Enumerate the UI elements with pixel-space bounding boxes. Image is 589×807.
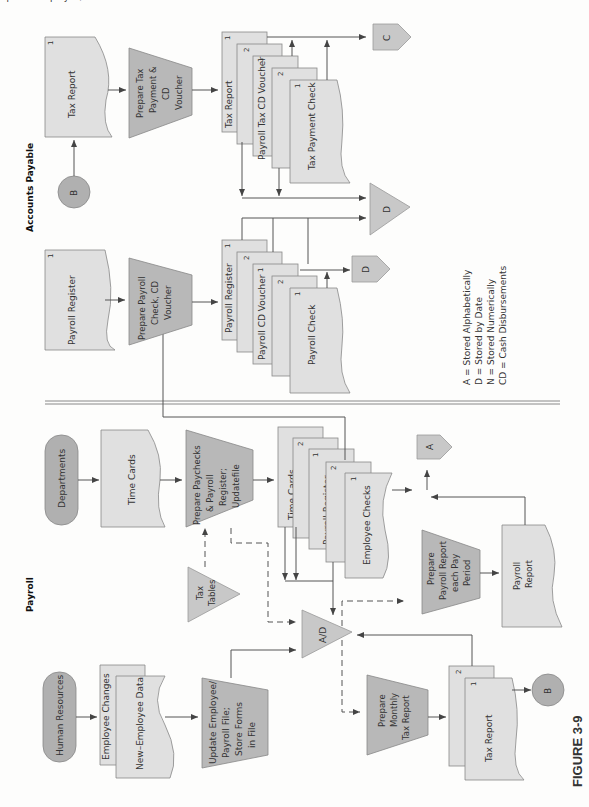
svg-text:1: 1 <box>294 292 302 296</box>
connector-b-ap: B <box>58 176 90 208</box>
svg-text:C: C <box>382 35 392 41</box>
svg-text:each Pay: each Pay <box>450 554 460 592</box>
prepare-tax-payment-process: Prepare Tax Payment & CD Voucher <box>129 48 192 138</box>
svg-text:Prepare: Prepare <box>377 694 387 727</box>
svg-text:A: A <box>425 443 435 450</box>
section-title-payroll: Payroll <box>25 577 35 612</box>
svg-text:Tax Report: Tax Report <box>401 694 411 741</box>
svg-text:1: 1 <box>257 268 265 272</box>
svg-text:Tax: Tax <box>195 586 205 601</box>
svg-text:Payroll Register: Payroll Register <box>67 275 77 345</box>
svg-text:Payroll: Payroll <box>512 562 522 590</box>
svg-text:D = Stored by Date: D = Stored by Date <box>474 297 484 385</box>
svg-text:D: D <box>382 206 392 213</box>
ap-tax-output-documents: 1 Tax Report 2 1 Payroll Tax CD Voucher … <box>222 32 350 183</box>
svg-text:Tax Payment Check: Tax Payment Check <box>307 82 317 171</box>
time-cards-document: Time Cards <box>101 430 165 527</box>
svg-text:Time Cards: Time Cards <box>127 454 137 506</box>
svg-text:Check, CD: Check, CD <box>150 281 160 325</box>
payroll-report-document: Payroll Report <box>502 525 562 627</box>
ap-payroll-output-documents: 1 Payroll Register 2 1 Payroll CD Vouche… <box>222 240 350 393</box>
svg-text:2: 2 <box>243 256 251 260</box>
svg-text:B: B <box>69 190 79 196</box>
human-resources-terminal: Human Resources <box>43 672 76 762</box>
flow-arrow <box>357 635 472 666</box>
svg-text:CD: CD <box>161 87 171 100</box>
svg-text:B: B <box>543 688 553 694</box>
tax-report-documents: 2 1 Tax Report <box>449 666 524 780</box>
svg-text:N = Stored Numerically: N = Stored Numerically <box>486 278 496 385</box>
svg-text:Monthly: Monthly <box>389 693 399 727</box>
svg-text:New–Employee Data: New–Employee Data <box>135 677 145 770</box>
departments-terminal: Departments <box>45 435 78 525</box>
prepare-paychecks-process: Prepare Paychecks & Payroll Register; Up… <box>186 430 253 527</box>
d-file-large: D <box>370 183 410 235</box>
svg-text:Register;: Register; <box>218 468 228 506</box>
ap-payroll-register-document: 1 Payroll Register <box>45 250 115 350</box>
ad-file: A/D <box>302 610 352 658</box>
svg-text:Tax Report: Tax Report <box>67 70 77 119</box>
reference-arrow <box>231 528 296 622</box>
flow-arrow <box>431 497 525 525</box>
svg-text:CD = Cash Disbursements: CD = Cash Disbursements <box>498 265 508 385</box>
flow-arrow <box>231 650 296 678</box>
svg-text:1: 1 <box>224 36 232 40</box>
prepare-payroll-check-process: Prepare Payroll Check, CD Voucher <box>129 258 192 345</box>
svg-text:Payroll Report: Payroll Report <box>438 540 448 600</box>
svg-text:Period: Period <box>462 559 472 586</box>
svg-text:2: 2 <box>243 48 251 52</box>
svg-text:in File: in File <box>247 721 257 748</box>
svg-text:Store Forms: Store Forms <box>234 702 244 756</box>
svg-text:Tax Report: Tax Report <box>484 714 494 763</box>
svg-text:Payroll File;: Payroll File; <box>221 707 231 758</box>
svg-text:Payroll Tax CD Voucher: Payroll Tax CD Voucher <box>257 57 267 160</box>
svg-text:1: 1 <box>312 453 320 457</box>
svg-text:A/D: A/D <box>318 627 328 643</box>
section-title-accounts-payable: Accounts Payable <box>25 143 35 232</box>
svg-text:2: 2 <box>277 72 285 76</box>
svg-text:1: 1 <box>350 477 358 481</box>
svg-text:2: 2 <box>455 670 463 674</box>
svg-text:Human Resources: Human Resources <box>55 674 65 756</box>
svg-text:Employee Changes: Employee Changes <box>101 673 111 760</box>
svg-text:Departments: Departments <box>57 449 67 508</box>
svg-text:1: 1 <box>224 244 232 248</box>
svg-text:Employee Checks: Employee Checks <box>362 485 372 565</box>
svg-text:Update Employee/: Update Employee/ <box>0 0 84 2</box>
prepare-payroll-report-process: Prepare Payroll Report each Pay Period <box>422 530 480 614</box>
svg-text:2: 2 <box>277 280 285 284</box>
reference-arrow <box>342 601 404 626</box>
ap-tax-report-document: 1 Tax Report <box>45 37 112 137</box>
svg-text:& Payroll: & Payroll <box>205 474 215 512</box>
svg-text:Prepare: Prepare <box>426 552 436 585</box>
svg-text:Payroll Check: Payroll Check <box>307 304 317 365</box>
svg-text:Tax Report: Tax Report <box>224 80 234 129</box>
svg-text:Payroll CD Voucher: Payroll CD Voucher <box>257 274 267 360</box>
svg-text:Voucher: Voucher <box>163 285 173 320</box>
svg-text:1: 1 <box>470 682 478 686</box>
svg-text:2: 2 <box>297 442 305 446</box>
svg-text:Tables: Tables <box>207 579 217 607</box>
d-file-small: D <box>352 256 390 282</box>
svg-text:A = Stored Alphabetically: A = Stored Alphabetically <box>462 269 472 385</box>
prepare-monthly-tax-report-process: Prepare Monthly Tax Report <box>367 675 428 755</box>
svg-text:Payroll Register: Payroll Register <box>224 263 234 333</box>
section-divider <box>45 401 560 404</box>
svg-text:1: 1 <box>294 84 302 88</box>
a-file: A <box>417 435 452 459</box>
svg-text:Update Employee/: Update Employee/ <box>208 680 218 764</box>
flowchart-canvas: Accounts Payable Payroll Human Resources… <box>0 0 589 807</box>
svg-text:Updatefile: Updatefile <box>231 464 241 508</box>
figure-caption: FIGURE 3-9 <box>570 715 585 787</box>
svg-text:2: 2 <box>330 466 338 470</box>
tax-tables-file: Tax Tables <box>188 567 240 622</box>
svg-text:1: 1 <box>47 41 55 45</box>
svg-text:Prepare Tax: Prepare Tax <box>135 69 145 118</box>
svg-text:D: D <box>361 266 371 273</box>
c-connector: C <box>373 24 411 50</box>
svg-text:Prepare Payroll: Prepare Payroll <box>137 276 147 340</box>
paychecks-output-documents: Time Cards 2 1 Payroll Register 2 1 Empl… <box>278 427 392 578</box>
svg-text:Payment &: Payment & <box>148 66 158 113</box>
connector-b-payroll: B <box>532 674 564 706</box>
new-employee-data-document: New–Employee Data <box>116 676 174 778</box>
